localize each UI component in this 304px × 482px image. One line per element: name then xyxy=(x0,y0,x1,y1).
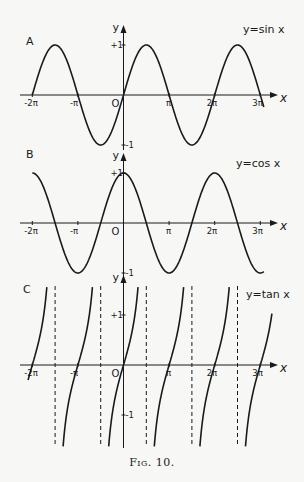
x-axis-label: x xyxy=(279,361,288,375)
x-axis-label: x xyxy=(279,91,288,105)
tan-branch xyxy=(154,287,183,446)
x-tick-label: 2π xyxy=(207,226,218,236)
panel-c-tan: C y=tan x xyO-2π-ππ2π3π+1-1 xyxy=(20,271,290,448)
figure-caption-text: Fig. 10. xyxy=(129,456,175,469)
y-axis-arrow-icon xyxy=(121,153,127,161)
y-tick-label: -1 xyxy=(126,410,134,420)
y-tick-label: -1 xyxy=(126,268,134,278)
tan-branch xyxy=(245,314,271,447)
x-tick-label: -2π xyxy=(24,98,38,108)
panel-c-title: y=tan x xyxy=(246,288,290,301)
x-tick-label: -2π xyxy=(24,226,38,236)
panel-c-asymptotes xyxy=(55,286,237,447)
y-tick-label: +1 xyxy=(111,40,124,50)
tan-branch xyxy=(28,287,47,380)
panel-a-sin: A y=sin x xyO-2π-ππ2π3π+1-1 xyxy=(20,21,288,150)
y-axis-label: y xyxy=(113,21,120,34)
panel-a-axes: xyO-2π-ππ2π3π+1-1 xyxy=(20,21,288,150)
x-axis-label: x xyxy=(279,219,288,233)
tan-branch xyxy=(63,287,92,446)
panel-letter-a: A xyxy=(26,35,34,48)
trig-functions-figure: A y=sin x xyO-2π-ππ2π3π+1-1 B y=cos x xy… xyxy=(0,0,304,482)
x-axis-arrow-icon xyxy=(270,92,278,98)
origin-label: O xyxy=(112,226,120,237)
y-tick-label: +1 xyxy=(111,310,124,320)
panel-letter-b: B xyxy=(26,148,34,161)
panel-letter-c: C xyxy=(23,283,31,296)
origin-label: O xyxy=(112,98,120,109)
tan-branch xyxy=(200,287,229,446)
x-tick-label: 3π xyxy=(252,226,263,236)
figure-caption: Fig. 10. xyxy=(0,456,304,469)
x-tick-label: π xyxy=(166,226,171,236)
tan-curves xyxy=(28,287,272,446)
y-tick-label: -1 xyxy=(126,140,134,150)
x-tick-label: -π xyxy=(70,226,78,236)
panel-b-cos: B y=cos x xyO-2π-ππ2π3π+1-1 xyxy=(20,148,288,278)
x-axis-arrow-icon xyxy=(270,362,278,368)
x-axis-arrow-icon xyxy=(270,220,278,226)
panel-a-title: y=sin x xyxy=(243,23,285,36)
y-axis-arrow-icon xyxy=(121,25,127,33)
y-axis-label: y xyxy=(113,149,120,162)
panel-b-title: y=cos x xyxy=(236,157,281,170)
y-axis-label: y xyxy=(113,271,120,284)
origin-label: O xyxy=(112,368,120,379)
x-tick-label: -π xyxy=(70,98,78,108)
